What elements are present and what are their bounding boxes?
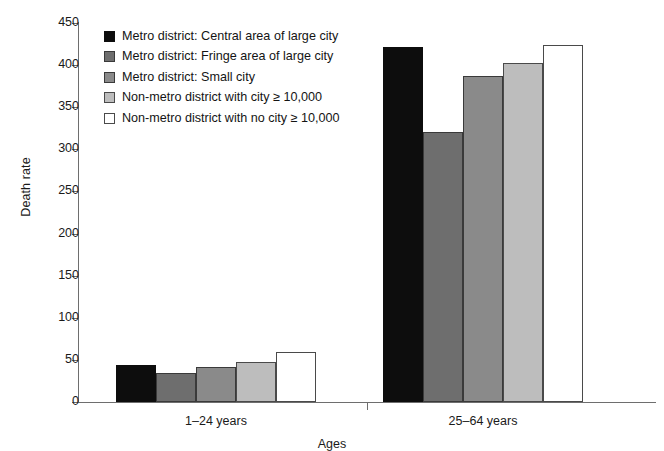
y-tick-label: 450: [19, 15, 79, 29]
bar: [423, 132, 463, 402]
legend-label: Non-metro district with city ≥ 10,000: [122, 91, 322, 104]
legend-swatch-icon: [104, 113, 115, 124]
y-tick: 350: [0, 107, 79, 108]
bar: [116, 365, 156, 402]
bar: [196, 367, 236, 402]
y-tick-label: 150: [19, 268, 79, 282]
legend-item: Non-metro district with city ≥ 10,000: [104, 88, 340, 109]
legend-item: Metro district: Fringe area of large cit…: [104, 47, 340, 68]
y-tick: 300: [0, 149, 79, 150]
legend-swatch-icon: [104, 31, 115, 42]
legend-item: Metro district: Small city: [104, 67, 340, 88]
y-tick: 200: [0, 234, 79, 235]
bar: [156, 373, 196, 402]
legend-swatch-icon: [104, 51, 115, 62]
legend-label: Metro district: Small city: [122, 71, 255, 84]
y-axis-line: [78, 22, 79, 403]
y-tick: 50: [0, 360, 79, 361]
x-category-label: 25–64 years: [449, 414, 518, 428]
y-tick-label: 100: [19, 310, 79, 324]
y-tick-label: 350: [19, 99, 79, 113]
y-tick-label: 300: [19, 141, 79, 155]
y-tick-label: 200: [19, 226, 79, 240]
legend-label: Metro district: Fringe area of large cit…: [122, 50, 333, 63]
y-tick: 100: [0, 318, 79, 319]
y-tick-label: 250: [19, 183, 79, 197]
y-tick: 400: [0, 65, 79, 66]
bar: [383, 47, 423, 402]
y-tick: 250: [0, 191, 79, 192]
x-tick-mark: [367, 403, 368, 410]
bar: [276, 352, 316, 402]
legend-label: Non-metro district with no city ≥ 10,000: [122, 112, 340, 125]
bar: [543, 45, 583, 402]
y-tick-label: 50: [19, 352, 79, 366]
legend-swatch-icon: [104, 92, 115, 103]
chart-legend: Metro district: Central area of large ci…: [104, 26, 340, 129]
bar: [463, 76, 503, 402]
legend-label: Metro district: Central area of large ci…: [122, 30, 338, 43]
legend-item: Non-metro district with no city ≥ 10,000: [104, 108, 340, 129]
y-tick: 0: [0, 402, 79, 403]
y-tick-label: 400: [19, 57, 79, 71]
legend-swatch-icon: [104, 72, 115, 83]
legend-item: Metro district: Central area of large ci…: [104, 26, 340, 47]
x-category-label: 1–24 years: [185, 414, 247, 428]
y-tick: 450: [0, 23, 79, 24]
x-axis-title: Ages: [0, 437, 664, 451]
bar: [503, 63, 543, 402]
y-tick-label: 0: [19, 394, 79, 408]
bar: [236, 362, 276, 402]
y-tick: 150: [0, 276, 79, 277]
bar-chart: Death rate 050100150200250300350400450 1…: [0, 0, 664, 451]
